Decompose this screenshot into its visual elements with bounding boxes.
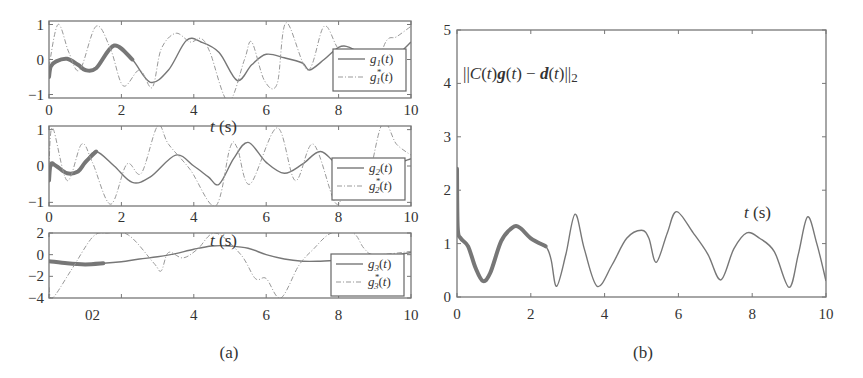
legend-entry-1: g2(t) xyxy=(369,160,392,177)
legend-entry-1: g1(t) xyxy=(370,51,393,68)
xtick-label: 4 xyxy=(190,307,198,323)
xtick-label: 10 xyxy=(819,306,834,322)
ytick-label: 5 xyxy=(444,22,452,38)
ytick-label: −1 xyxy=(28,87,44,103)
ytick-label: 2 xyxy=(37,225,45,241)
legend: g3(t)g*3(t) xyxy=(331,254,404,296)
xtick-label: 0 xyxy=(45,102,53,118)
series-0-band xyxy=(49,45,132,77)
series-line-0 xyxy=(457,169,826,288)
ytick-label: 0 xyxy=(37,52,45,68)
legend: g1(t)g*1(t) xyxy=(333,49,406,91)
residual-norm-annotation: ||C(t)g(t) − d(t)||2 xyxy=(463,64,578,85)
ytick-label: −2 xyxy=(28,268,44,284)
ytick-label: 2 xyxy=(444,182,452,198)
xtick-label: 6 xyxy=(262,307,270,323)
xlabel-b: t (s) xyxy=(744,203,771,222)
xtick-label: 4 xyxy=(601,306,609,322)
xtick-label: 0 xyxy=(453,306,461,322)
ytick-label: 0 xyxy=(37,158,45,174)
ytick-label: −4 xyxy=(28,290,44,306)
xtick-label: 8 xyxy=(748,306,756,322)
caption-a: (a) xyxy=(220,343,239,362)
xtick-label: 8 xyxy=(335,209,343,225)
xtick-label: 2 xyxy=(118,209,126,225)
xtick-label: 6 xyxy=(262,209,270,225)
xtick-label: 10 xyxy=(404,102,419,118)
xtick-label: 0 xyxy=(45,209,53,225)
caption-b: (b) xyxy=(633,343,653,362)
legend-entry-2: g*2(t) xyxy=(369,176,392,195)
xtick-label: 2 xyxy=(118,102,126,118)
panel-a2-g2: 0246810−101g2(t)g*2(t) xyxy=(28,122,418,225)
legend-entry-1: g3(t) xyxy=(368,256,391,273)
legend: g2(t)g*2(t) xyxy=(332,158,405,200)
ytick-label: 1 xyxy=(37,17,45,33)
xtick-label: 10 xyxy=(404,209,419,225)
legend-entry-2: g*3(t) xyxy=(368,272,391,291)
ytick-label: 1 xyxy=(444,236,452,252)
xlabel-a1: t (s) xyxy=(210,117,237,136)
ytick-label: 3 xyxy=(444,129,452,145)
xtick-label: 2 xyxy=(527,306,535,322)
ytick-label: 1 xyxy=(37,122,45,138)
figure: 0246810−101g1(t)g*1(t) 0246810−101g2(t)g… xyxy=(0,0,863,378)
xtick-label: 4 xyxy=(190,209,198,225)
panel-a1-g1: 0246810−101g1(t)g*1(t) xyxy=(28,17,418,119)
plot-area xyxy=(457,169,826,288)
xtick-label: 10 xyxy=(404,307,419,323)
xlabel-a2: t (s) xyxy=(210,231,237,250)
series-0-band xyxy=(457,169,546,281)
xtick-label: 6 xyxy=(675,306,683,322)
xtick-label: 4 xyxy=(190,102,198,118)
xtick-label: 8 xyxy=(335,307,343,323)
xtick-label: 02 xyxy=(85,307,100,323)
ytick-label: 4 xyxy=(444,75,452,91)
xtick-label: 6 xyxy=(262,102,270,118)
ytick-label: −1 xyxy=(28,194,44,210)
ytick-label: 0 xyxy=(37,247,45,263)
legend-entry-2: g*1(t) xyxy=(370,67,393,86)
ytick-label: 0 xyxy=(444,289,452,305)
xtick-label: 8 xyxy=(335,102,343,118)
